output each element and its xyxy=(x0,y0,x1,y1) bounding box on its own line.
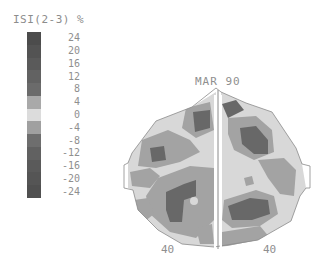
left-hemisphere xyxy=(120,90,220,250)
brain-topography-map xyxy=(0,0,320,259)
right-hemisphere xyxy=(218,90,310,250)
left-hemisphere-value: 40 xyxy=(161,243,174,256)
right-hemisphere-value: 40 xyxy=(263,243,276,256)
